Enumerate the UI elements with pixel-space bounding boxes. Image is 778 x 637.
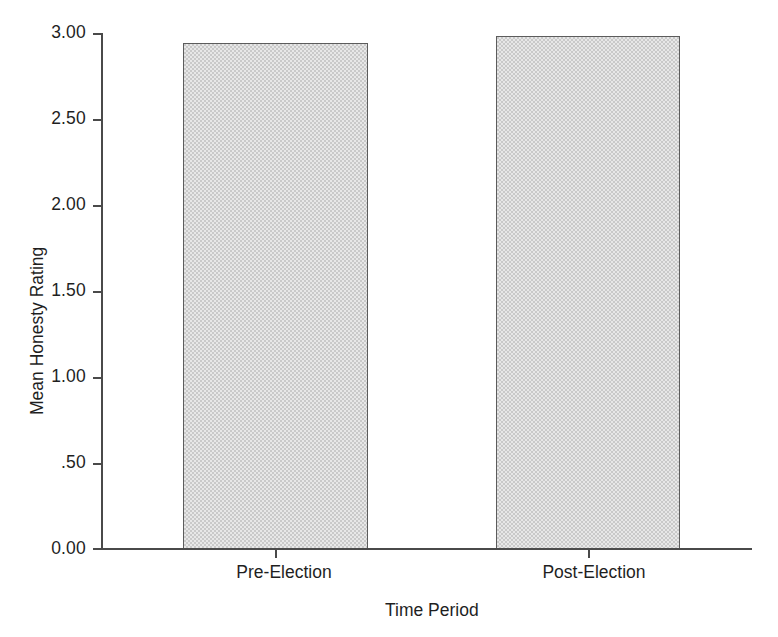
- y-tick-label-2.00: 2.00: [26, 196, 86, 214]
- y-tick-label-1.50: 1.50: [26, 282, 86, 300]
- x-axis-line: [101, 548, 752, 550]
- y-tick-label-0.50: .50: [26, 454, 86, 472]
- x-tick-label-pre-election: Pre-Election: [236, 562, 331, 582]
- y-tick-label-0.00: 0.00: [26, 540, 86, 558]
- y-tick-label-2.50: 2.50: [26, 110, 86, 128]
- x-axis-title: Time Period: [385, 600, 479, 621]
- bar-chart: Mean Honesty Rating 3.00 2.50 2.00 1.50 …: [0, 0, 778, 637]
- bar-post-election[interactable]: [496, 36, 680, 549]
- y-tick-label-3.00: 3.00: [26, 24, 86, 42]
- bar-pre-election[interactable]: [183, 43, 368, 549]
- y-axis-line: [101, 33, 103, 550]
- x-tick-mark-post-election: [588, 550, 590, 558]
- y-tick-label-1.00: 1.00: [26, 368, 86, 386]
- x-tick-label-post-election: Post-Election: [542, 562, 645, 582]
- x-tick-mark-pre-election: [275, 550, 277, 558]
